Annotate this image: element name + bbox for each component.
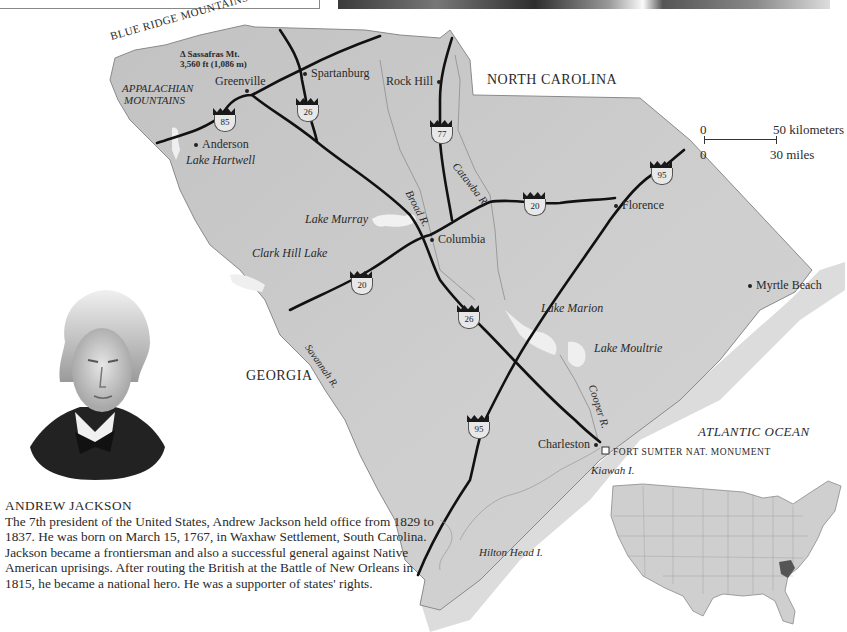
label-sassafras-elevation: 3,560 ft (1,086 m) [180,59,247,69]
city-rock-hill: Rock Hill [386,74,445,89]
scale-tick-left [704,136,705,144]
label-atlantic-ocean: ATLANTIC OCEAN [698,424,810,440]
label-fort-sumter: FORT SUMTER NAT. MONUMENT [613,447,771,457]
andrew-jackson-portrait [20,272,170,480]
label-mountains: MOUNTAINS [124,94,185,106]
city-dot [437,80,441,84]
city-dot-greenville [245,89,249,93]
scale-tick-right [776,136,777,144]
interstate-shield-26-north: 26 [296,98,318,122]
city-columbia: Columbia [426,232,485,247]
city-greenville: Greenville [215,74,266,89]
caption-body: The 7th president of the United States, … [5,514,435,592]
us-locator-map [603,476,843,626]
label-hilton-head-island: Hilton Head I. [479,546,543,558]
scale-line [704,139,776,140]
interstate-shield-77: 77 [430,120,452,144]
scale-mi-label: 30 miles [770,147,814,163]
capital-dot [430,238,434,242]
city-dot [594,443,598,447]
interstate-shield-20-west: 20 [350,271,372,295]
scale-km-label: 50 kilometers [773,122,844,138]
city-dot [303,72,307,76]
interstate-shield-20-east: 20 [523,192,545,216]
interstate-shield-95-north: 95 [650,161,672,185]
scale-bar: 0 50 kilometers 0 30 miles [700,96,847,166]
fort-sumter-marker [602,447,609,454]
label-lake-murray: Lake Murray [305,212,368,227]
city-spartanburg: Spartanburg [299,66,369,81]
label-lake-hartwell: Lake Hartwell [186,153,255,168]
city-dot [614,204,618,208]
city-florence: Florence [610,198,664,213]
interstate-shield-85: 85 [213,108,235,132]
city-anderson: Anderson [190,137,249,152]
label-north-carolina: NORTH CAROLINA [487,72,617,88]
caption-block: ANDREW JACKSON The 7th president of the … [5,498,435,592]
city-charleston: Charleston [538,437,602,452]
caption-title: ANDREW JACKSON [5,498,435,514]
interstate-shield-95-south: 95 [467,415,489,439]
label-clark-hill-lake: Clark Hill Lake [252,246,327,261]
city-dot [748,284,752,288]
label-kiawah-island: Kiawah I. [591,464,634,476]
label-lake-moultrie: Lake Moultrie [594,341,662,356]
label-sassafras-mt: Δ Sassafras Mt. [180,49,239,59]
us-land [611,481,841,624]
scale-mi-zero: 0 [700,147,707,163]
label-appalachian: APPALACHIAN [122,82,193,94]
city-myrtle-beach: Myrtle Beach [744,278,822,293]
interstate-shield-26-south: 26 [457,305,479,329]
city-dot [194,143,198,147]
label-lake-marion: Lake Marion [541,301,603,316]
label-georgia: GEORGIA [246,368,313,384]
